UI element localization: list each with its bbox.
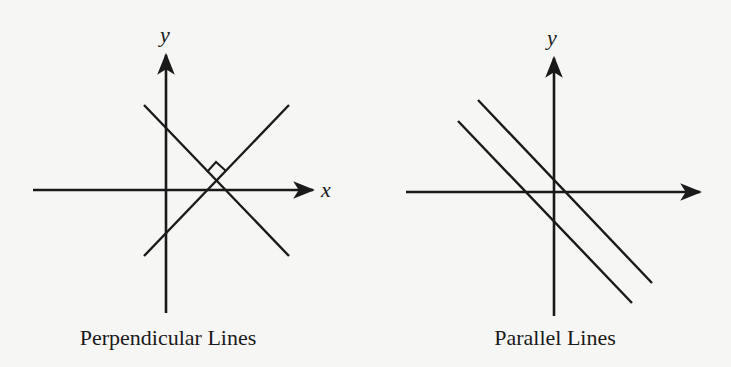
diagram-canvas: y x Perpendicular Lines y Parallel Lines — [0, 0, 731, 367]
x-axis-label: x — [320, 177, 331, 202]
y-axis-label: y — [545, 25, 557, 50]
caption-perpendicular: Perpendicular Lines — [80, 325, 257, 350]
perpendicular-figure: y x Perpendicular Lines — [33, 22, 331, 350]
y-axis-label: y — [158, 22, 170, 47]
caption-parallel: Parallel Lines — [494, 325, 616, 350]
parallel-line-lower — [458, 121, 632, 303]
parallel-figure: y Parallel Lines — [406, 25, 700, 350]
right-angle-marker — [207, 162, 226, 172]
lines-diagram: y x Perpendicular Lines y Parallel Lines — [0, 0, 731, 367]
